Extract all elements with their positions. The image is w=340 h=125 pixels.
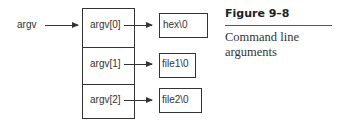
array-divider [83, 84, 134, 85]
array-divider [83, 47, 134, 48]
array-cell-label: argv[1] [90, 59, 121, 69]
string-label: file1\0 [162, 59, 189, 69]
string-label: file2\0 [162, 95, 189, 105]
string-label: hex\0 [163, 20, 187, 30]
cell-arrow [124, 25, 152, 26]
argv-pointer-label: argv [17, 20, 36, 30]
figure-caption: Command line arguments [225, 30, 335, 60]
figure-rule [225, 25, 332, 26]
argv-arrow [45, 25, 78, 26]
figure-title: Figure 9–8 [225, 7, 290, 20]
array-cell-label: argv[2] [90, 95, 121, 105]
array-cell-label: argv[0] [90, 20, 121, 30]
cell-arrow [124, 100, 152, 101]
cell-arrow [124, 64, 152, 65]
